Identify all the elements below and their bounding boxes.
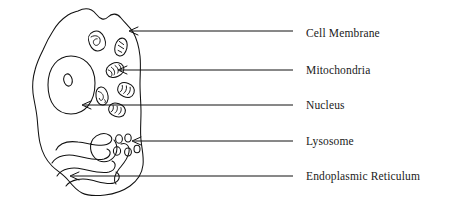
lysosome-vesicle xyxy=(125,134,131,142)
leader-lysosome xyxy=(132,137,293,145)
lysosome-vesicle xyxy=(134,145,140,153)
leader-mitochondria xyxy=(118,66,293,74)
leader-endoplasmic-reticulum xyxy=(70,172,293,180)
label-endoplasmic-reticulum: Endoplasmic Reticulum xyxy=(306,170,420,182)
mitochondrion xyxy=(107,101,127,119)
label-nucleus: Nucleus xyxy=(306,99,345,111)
mitochondrion xyxy=(86,29,108,54)
label-lysosome: Lysosome xyxy=(306,135,354,147)
lysosome-vesicle xyxy=(116,135,123,143)
leader-cell-membrane xyxy=(129,27,293,35)
mitochondrion xyxy=(95,86,109,105)
label-mitochondria: Mitochondria xyxy=(306,64,370,76)
cell-diagram-figure: Cell Membrane Mitochondria Nucleus Lysos… xyxy=(0,0,464,208)
label-cell-membrane: Cell Membrane xyxy=(306,27,380,39)
mitochondrion xyxy=(116,81,137,100)
mitochondrion xyxy=(113,37,129,57)
